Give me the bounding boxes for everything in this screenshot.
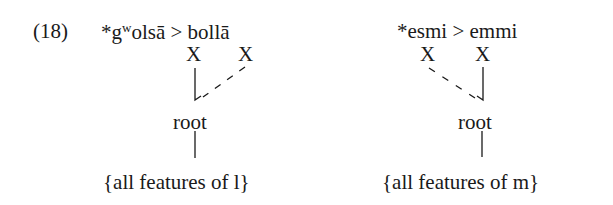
left-dashed-association-line [203, 67, 245, 97]
association-lines [0, 0, 613, 205]
left-solid-association-line [195, 68, 201, 100]
right-dashed-association-line [429, 68, 475, 98]
right-solid-association-line [477, 67, 483, 100]
